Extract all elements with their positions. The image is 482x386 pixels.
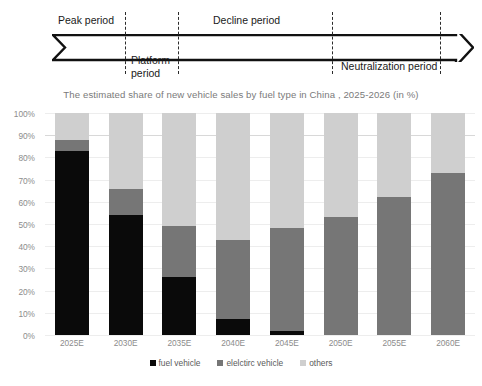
chart-legend: fuel vehicle elelctirc vehicle others xyxy=(0,358,482,368)
bar-segment-2045E-fuel-vehicle xyxy=(270,331,304,335)
divider-platform-decline xyxy=(178,12,179,74)
bar-segment-2045E-elelctirc-vehicle xyxy=(270,228,304,330)
bar-segment-2040E-others xyxy=(216,113,250,240)
bar-segment-2040E-elelctirc-vehicle xyxy=(216,240,250,320)
bar-2055E[interactable] xyxy=(377,113,411,335)
period-label-platform-line1: Platform xyxy=(131,54,170,67)
y-axis-tick-40: 40% xyxy=(0,242,35,252)
legend-swatch-fuel-vehicle xyxy=(150,360,156,366)
legend-label-fuel-vehicle: fuel vehicle xyxy=(159,358,201,368)
legend-label-electric-vehicle: elelctirc vehicle xyxy=(226,358,283,368)
bar-segment-2030E-elelctirc-vehicle xyxy=(109,189,143,216)
y-axis-tick-30: 30% xyxy=(0,264,35,274)
period-label-neutralization: Neutralization period xyxy=(341,60,437,72)
bar-2050E[interactable] xyxy=(324,113,358,335)
gridline-0 xyxy=(45,335,475,336)
period-label-platform: Platform period xyxy=(131,54,170,80)
bar-segment-2060E-others xyxy=(431,113,465,173)
bar-segment-2030E-others xyxy=(109,113,143,188)
plot-grid: 100%90%80%70%60%50%40%30%20%10%0% xyxy=(45,113,475,335)
y-axis-tick-90: 90% xyxy=(0,131,35,141)
legend-item-fuel-vehicle[interactable]: fuel vehicle xyxy=(150,358,201,368)
y-axis-tick-10: 10% xyxy=(0,309,35,319)
bar-2025E[interactable] xyxy=(55,113,89,335)
bar-segment-2025E-others xyxy=(55,113,89,140)
y-axis-tick-50: 50% xyxy=(0,220,35,230)
divider-end xyxy=(440,12,441,74)
legend-swatch-electric-vehicle xyxy=(217,360,223,366)
bar-2045E[interactable] xyxy=(270,113,304,335)
bar-2040E[interactable] xyxy=(216,113,250,335)
y-axis-tick-60: 60% xyxy=(0,198,35,208)
period-label-decline: Decline period xyxy=(213,14,280,26)
bar-segment-2025E-fuel-vehicle xyxy=(55,151,89,335)
bar-segment-2040E-fuel-vehicle xyxy=(216,319,250,335)
period-label-peak: Peak period xyxy=(58,14,114,26)
y-axis-tick-0: 0% xyxy=(0,331,35,341)
bar-segment-2060E-elelctirc-vehicle xyxy=(431,173,465,335)
bar-segment-2050E-others xyxy=(324,113,358,217)
y-axis-tick-80: 80% xyxy=(0,153,35,163)
bar-2060E[interactable] xyxy=(431,113,465,335)
y-axis-tick-70: 70% xyxy=(0,176,35,186)
y-axis-tick-100: 100% xyxy=(0,109,35,119)
legend-item-others[interactable]: others xyxy=(300,358,332,368)
bar-segment-2025E-elelctirc-vehicle xyxy=(55,140,89,151)
bar-segment-2045E-others xyxy=(270,113,304,228)
bar-2035E[interactable] xyxy=(162,113,196,335)
bar-segment-2035E-elelctirc-vehicle xyxy=(162,226,196,277)
bar-segment-2035E-others xyxy=(162,113,196,226)
bar-2030E[interactable] xyxy=(109,113,143,335)
bar-segment-2055E-others xyxy=(377,113,411,197)
x-axis-tick-2060E: 2060E xyxy=(413,338,482,348)
divider-peak-platform xyxy=(125,12,126,74)
timeline-band: Peak period Platform period Decline peri… xyxy=(0,0,482,88)
chart-title: The estimated share of new vehicle sales… xyxy=(0,89,482,100)
divider-decline-neutral xyxy=(332,12,333,74)
y-axis-tick-20: 20% xyxy=(0,287,35,297)
legend-label-others: others xyxy=(309,358,332,368)
plot-area: 100%90%80%70%60%50%40%30%20%10%0% 2025E2… xyxy=(0,104,482,344)
timeline-arrow xyxy=(52,34,474,62)
legend-swatch-others xyxy=(300,360,306,366)
bar-segment-2035E-fuel-vehicle xyxy=(162,277,196,335)
bar-segment-2055E-elelctirc-vehicle xyxy=(377,197,411,335)
bar-segment-2050E-elelctirc-vehicle xyxy=(324,217,358,335)
bar-segment-2030E-fuel-vehicle xyxy=(109,215,143,335)
period-label-platform-line2: period xyxy=(131,67,170,80)
legend-item-electric-vehicle[interactable]: elelctirc vehicle xyxy=(217,358,283,368)
